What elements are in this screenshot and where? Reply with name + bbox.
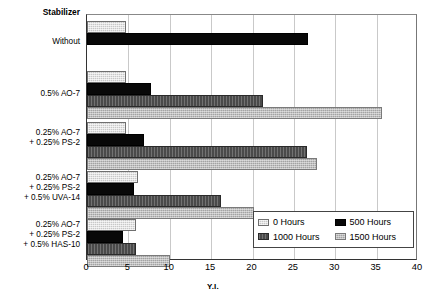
legend-label: 500 Hours: [350, 217, 392, 227]
category-label-has10-line2: + 0.25% PS-2: [29, 230, 80, 240]
bar-1000-hours: [87, 95, 263, 107]
legend: 0 Hours500 Hours1000 Hours1500 Hours: [253, 211, 414, 248]
category-label-ao7: 0.5% AO-7: [40, 89, 80, 99]
x-tick-label: 25: [288, 262, 298, 272]
x-tick-label: 20: [246, 262, 256, 272]
category-label-has10-line1: 0.25% AO-7: [36, 220, 80, 230]
bar-500-hours: [87, 83, 151, 95]
x-tick-label: 10: [164, 262, 174, 272]
x-axis-title: Y.I.: [207, 282, 219, 291]
legend-item: 1500 Hours: [335, 230, 410, 245]
x-tick-label: 40: [412, 262, 422, 272]
category-label-ao7-ps2-line2: + 0.25% PS-2: [29, 138, 80, 148]
bar-0-hours: [87, 219, 136, 231]
bar-1000-hours: [87, 146, 307, 158]
category-label-has10-line3: + 0.5% HAS-10: [23, 240, 80, 250]
bar-1500-hours: [87, 158, 317, 170]
x-tick-label: 35: [370, 262, 380, 272]
swatch-0-hours-icon: [258, 219, 269, 226]
bar-500-hours: [87, 231, 123, 243]
category-label-uva14-line2: + 0.25% PS-2: [29, 183, 80, 193]
bar-1000-hours: [87, 243, 136, 255]
axis-header-stabilizer: Stabilizer: [43, 8, 80, 18]
x-axis-ticks: 0510152025303540: [0, 260, 445, 278]
bar-1500-hours: [87, 207, 254, 219]
legend-item: 0 Hours: [258, 215, 333, 230]
bar-0-hours: [87, 21, 126, 33]
x-tick-label: 5: [125, 262, 130, 272]
category-label-without: Without: [52, 37, 80, 47]
bar-0-hours: [87, 71, 126, 83]
x-tick-label: 0: [83, 262, 88, 272]
swatch-500-hours-icon: [335, 219, 346, 226]
legend-label: 1000 Hours: [273, 232, 320, 242]
bar-0-hours: [87, 171, 138, 183]
bar-0-hours: [87, 122, 126, 134]
legend-item: 1000 Hours: [258, 230, 333, 245]
x-tick-label: 15: [205, 262, 215, 272]
category-label-ao7-ps2-line1: 0.25% AO-7: [36, 128, 80, 138]
bar-1500-hours: [87, 107, 382, 119]
category-label-uva14-line1: 0.25% AO-7: [36, 173, 80, 183]
bar-500-hours: [87, 183, 134, 195]
bar-500-hours: [87, 134, 144, 146]
bar-1000-hours: [87, 195, 221, 207]
swatch-1000-hours-icon: [258, 233, 269, 240]
x-tick-label: 30: [329, 262, 339, 272]
category-axis-labels: Stabilizer Without 0.5% AO-7 0.25% AO-7 …: [0, 0, 84, 303]
legend-label: 0 Hours: [273, 217, 305, 227]
bar-chart: Stabilizer Without 0.5% AO-7 0.25% AO-7 …: [0, 0, 445, 303]
legend-item: 500 Hours: [335, 215, 410, 230]
legend-label: 1500 Hours: [350, 232, 397, 242]
bar-500-hours: [87, 33, 308, 45]
category-label-uva14-line3: + 0.5% UVA-14: [24, 193, 80, 203]
swatch-1500-hours-icon: [335, 233, 346, 240]
